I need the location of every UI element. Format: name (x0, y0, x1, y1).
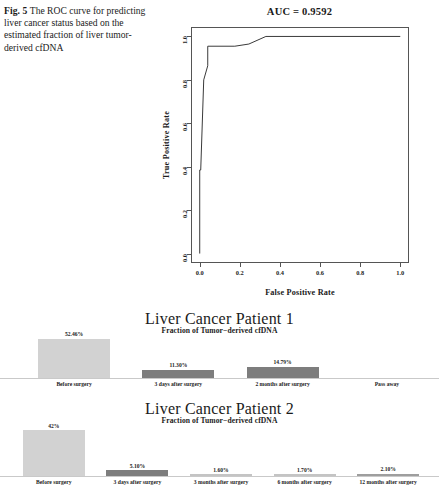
roc-x-tick-label: 1.0 (396, 269, 404, 276)
roc-y-tick-label: 0.6 (181, 123, 188, 131)
roc-x-tick-mark (360, 263, 361, 267)
roc-x-tick-label: 0.4 (276, 269, 284, 276)
roc-x-axis-label: False Positive Rate (191, 288, 409, 297)
roc-y-tick-mark (187, 254, 191, 255)
bar-category-label: 12 months after surgery (360, 479, 417, 485)
roc-y-tick-label: 0.0 (181, 254, 188, 262)
bar-category-label: Before surgery (36, 479, 71, 485)
bar-column: 1.60% (179, 426, 263, 476)
roc-x-tick-mark (400, 263, 401, 267)
bar-category-label: 3 days after surgery (155, 381, 203, 387)
roc-y-tick-mark (187, 167, 191, 168)
figure-label: Fig. 5 (4, 5, 28, 16)
bar-column: 42% (12, 426, 96, 476)
roc-y-tick-mark (187, 210, 191, 211)
bar-column: 1.70% (263, 426, 347, 476)
bar (247, 367, 319, 378)
bar (23, 430, 85, 476)
bar-value-label: 5.10% (130, 463, 145, 469)
bar-column: 14.79% (231, 336, 335, 378)
bar-value-label: 14.79% (274, 359, 292, 365)
bar-category-label: 3 months after surgery (194, 479, 248, 485)
patient-1-plot: 52.46%11.30%14.79% (0, 336, 439, 378)
bar-value-label: 1.60% (213, 467, 228, 473)
roc-y-tick-mark (187, 80, 191, 81)
bar-column (335, 336, 439, 378)
roc-plot-area (191, 27, 409, 263)
bar-value-label: 11.30% (169, 362, 187, 368)
roc-curve-panel: AUC = 0.9592 False Positive Rate True Po… (160, 0, 439, 302)
bar-category-label: 6 months after surgery (277, 479, 331, 485)
bar-category-label: 3 days after surgery (114, 479, 162, 485)
bar-column: 11.30% (126, 336, 230, 378)
roc-x-tick-label: 0.8 (356, 269, 364, 276)
roc-y-tick-label: 1.0 (181, 36, 188, 44)
bar-category-label: 2 months after surgery (255, 381, 309, 387)
roc-y-axis-label: True Positive Rate (162, 111, 171, 179)
patient-1-axis-line (0, 378, 439, 379)
bar-column: 52.46% (22, 336, 126, 378)
roc-x-tick-label: 0.0 (196, 269, 204, 276)
bar-value-label: 52.46% (65, 331, 83, 337)
roc-x-tick-mark (200, 263, 201, 267)
bar-column: 2.10% (346, 426, 430, 476)
patient-2-subtitle: Fraction of Tumor−derived cfDNA (0, 416, 439, 425)
bar (38, 339, 110, 378)
bar-column: 5.10% (96, 426, 180, 476)
roc-x-tick-mark (280, 263, 281, 267)
bar (142, 370, 214, 378)
roc-y-tick-label: 0.4 (181, 167, 188, 175)
roc-y-tick-mark (187, 123, 191, 124)
roc-curve-line (191, 27, 409, 263)
patient-2-axis-line (0, 476, 439, 477)
roc-auc-title: AUC = 0.9592 (160, 6, 439, 17)
roc-x-tick-mark (320, 263, 321, 267)
bar-category-label: Pass away (375, 381, 399, 387)
figure-caption: Fig. 5 The ROC curve for predicting live… (4, 5, 156, 54)
roc-y-tick-mark (187, 36, 191, 37)
bar-value-label: 2.10% (380, 466, 395, 472)
roc-x-tick-label: 0.2 (236, 269, 244, 276)
roc-x-tick-label: 0.6 (316, 269, 324, 276)
patient-1-chart-panel: Liver Cancer Patient 1 Fraction of Tumor… (0, 302, 439, 394)
roc-x-tick-mark (240, 263, 241, 267)
bar-value-label: 1.70% (297, 467, 312, 473)
patient-2-chart-panel: Liver Cancer Patient 2 Fraction of Tumor… (0, 396, 439, 486)
patient-2-plot: 42%5.10%1.60%1.70%2.10% (0, 426, 439, 476)
roc-y-tick-label: 0.8 (181, 80, 188, 88)
roc-y-tick-label: 0.2 (181, 210, 188, 218)
bar-category-label: Before surgery (56, 381, 91, 387)
bar-value-label: 42% (48, 423, 59, 429)
